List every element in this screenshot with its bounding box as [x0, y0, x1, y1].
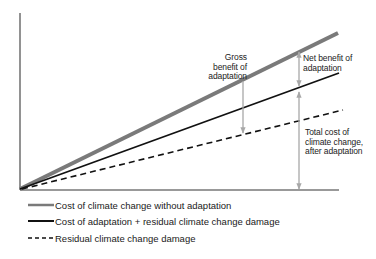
legend-label: Cost of climate change without adaptatio… — [55, 200, 231, 211]
annotation-line: adaptation — [303, 64, 352, 74]
legend-swatch-thick-gray-line — [28, 202, 54, 208]
legend-item-residual-damage: Residual climate change damage — [28, 232, 195, 244]
series-residual-damage — [22, 110, 343, 189]
legend-item-with-adaptation: Cost of adaptation + residual climate ch… — [28, 215, 280, 227]
legend-swatch-dashed-line — [28, 235, 54, 241]
series-cost-without-adaptation — [20, 33, 338, 189]
annotation-gross-benefit: Gross benefit of adaptation — [201, 53, 247, 82]
legend-item-without-adaptation: Cost of climate change without adaptatio… — [28, 199, 231, 211]
legend-label: Residual climate change damage — [55, 233, 195, 244]
annotation-line: after adaptation — [305, 147, 363, 157]
legend-label: Cost of adaptation + residual climate ch… — [55, 216, 280, 227]
legend-swatch-black-line — [28, 218, 54, 224]
series-cost-with-adaptation — [20, 73, 339, 189]
annotation-line: adaptation — [201, 72, 247, 82]
annotation-net-benefit: Net benefit of adaptation — [303, 54, 352, 73]
annotation-total-cost: Total cost of climate change, after adap… — [305, 128, 363, 157]
